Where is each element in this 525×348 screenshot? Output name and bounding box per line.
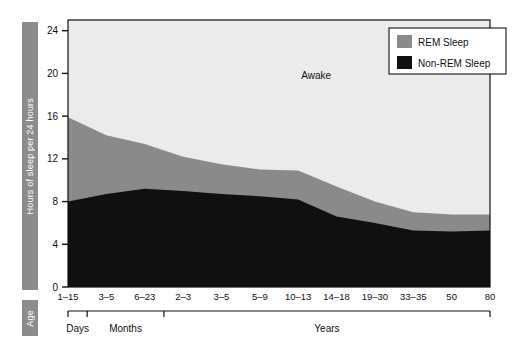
awake-label: Awake [301, 70, 331, 81]
legend: REM SleepNon-REM Sleep [389, 28, 506, 74]
age-group-label: Years [314, 323, 339, 334]
legend-swatch [397, 35, 412, 48]
x-tick-label: 33–35 [400, 291, 426, 302]
x-tick-label: 80 [485, 291, 496, 302]
y-tick-label: 20 [47, 68, 59, 79]
y-axis: 04812162024 [47, 25, 68, 292]
x-tick-label: 14–18 [323, 291, 349, 302]
y-tick-label: 16 [47, 111, 59, 122]
chart-canvas: 04812162024 1–153–56–232–33–55–910–1314–… [0, 0, 525, 348]
age-group-label: Days [66, 323, 89, 334]
y-tick-label: 4 [52, 239, 58, 250]
y-tick-label: 12 [47, 153, 59, 164]
annotation-layer: Awake [301, 70, 331, 81]
x-tick-label: 19–30 [362, 291, 388, 302]
x-tick-label: 3–5 [214, 291, 230, 302]
legend-swatch [397, 56, 412, 69]
x-axis: 1–153–56–232–33–55–910–1314–1819–3033–35… [57, 291, 495, 334]
y-tick-label: 24 [47, 25, 59, 36]
y-tick-label: 8 [52, 196, 58, 207]
legend-label: Non-REM Sleep [418, 58, 491, 69]
x-tick-label: 3–5 [98, 291, 114, 302]
x-tick-label: 10–13 [285, 291, 311, 302]
x-tick-label: 5–9 [252, 291, 268, 302]
sleep-chart-figure: Hours of sleep per 24 hours Age 04812162… [0, 0, 525, 348]
x-tick-label: 1–15 [57, 291, 78, 302]
x-tick-label: 50 [446, 291, 457, 302]
legend-label: REM Sleep [418, 37, 469, 48]
age-group-label: Months [109, 323, 142, 334]
x-tick-label: 2–3 [175, 291, 191, 302]
x-tick-label: 6–23 [134, 291, 155, 302]
